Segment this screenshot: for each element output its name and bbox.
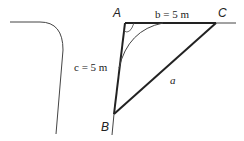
vertex-label-a: A bbox=[113, 7, 121, 19]
vertex-label-b: B bbox=[101, 121, 109, 133]
inner-arc bbox=[119, 23, 163, 68]
side-label-c: c = 5 m bbox=[74, 62, 107, 73]
side-c bbox=[114, 23, 125, 114]
vertex-label-c: C bbox=[218, 7, 227, 19]
triangle-diagram bbox=[0, 0, 244, 141]
side-label-b: b = 5 m bbox=[155, 9, 189, 20]
curved-path bbox=[10, 22, 63, 134]
side-label-a: a bbox=[170, 75, 176, 86]
line-ab-extension bbox=[112, 114, 114, 135]
side-a bbox=[114, 23, 216, 114]
